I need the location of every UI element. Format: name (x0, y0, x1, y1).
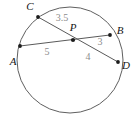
point-label-a: A (9, 55, 17, 67)
point-b-dot (108, 33, 112, 37)
measure-label-cp: 3.5 (56, 12, 69, 23)
chord-cd (38, 17, 118, 62)
point-label-p: P (69, 21, 77, 33)
measure-label-pd: 4 (86, 51, 91, 62)
circle-chord-diagram: A B C D P 3.5 5 3 4 (0, 0, 135, 124)
point-p-dot (71, 38, 75, 42)
point-label-d: D (121, 59, 130, 71)
point-d-dot (116, 60, 120, 64)
geometry-figure: A B C D P 3.5 5 3 4 (0, 0, 135, 124)
point-a-dot (18, 44, 22, 48)
measure-label-pb: 3 (98, 36, 103, 47)
chord-ab (20, 35, 110, 46)
point-label-b: B (117, 24, 124, 36)
point-label-c: C (26, 0, 34, 12)
measure-label-ap: 5 (45, 46, 50, 57)
point-c-dot (36, 15, 40, 19)
